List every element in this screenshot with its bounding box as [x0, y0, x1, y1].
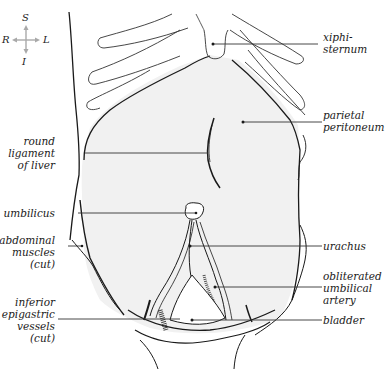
label-line: ligament [8, 147, 55, 159]
compass-superior: S [22, 13, 29, 23]
leg-right [234, 335, 245, 369]
label-line: (cut) [2, 332, 55, 344]
label-line: epigastric [2, 308, 55, 320]
label-xiphisternum: xiphi- sternum [323, 31, 367, 55]
label-line: xiphi- [323, 31, 367, 43]
compass-right: R [2, 35, 10, 45]
label-obliterated-umbilical-artery: obliterated umbilical artery [323, 270, 382, 306]
compass-inferior: I [22, 57, 26, 67]
label-line: round [8, 135, 55, 147]
label-line: artery [323, 294, 382, 306]
label-line: sternum [323, 43, 367, 55]
compass-left: L [43, 35, 50, 45]
rib-left-1 [98, 14, 188, 48]
label-inferior-epigastric-vessels: inferior epigastric vessels (cut) [2, 296, 55, 344]
label-line: umbilical [323, 282, 382, 294]
xiphisternum-side [196, 14, 204, 30]
rib-right-1 [230, 14, 303, 64]
label-urachus: urachus [323, 240, 366, 252]
label-line: muscles [0, 246, 55, 258]
label-bladder: bladder [323, 314, 364, 326]
umbilicus-shape [185, 203, 203, 220]
label-line: (cut) [0, 258, 55, 270]
label-abdominal-muscles: abdominal muscles (cut) [0, 234, 55, 270]
left-body-wall [69, 12, 79, 240]
label-umbilicus: umbilicus [3, 207, 55, 219]
label-line: parietal [323, 109, 385, 121]
label-line: inferior [2, 296, 55, 308]
label-line: abdominal [0, 234, 55, 246]
label-line: bladder [323, 314, 364, 326]
label-line: peritoneum [323, 121, 385, 133]
label-line: vessels [2, 320, 55, 332]
label-line: obliterated [323, 270, 382, 282]
compass-rose [12, 25, 40, 54]
label-line: urachus [323, 240, 366, 252]
label-line: of liver [8, 159, 55, 171]
leg-left [140, 340, 158, 369]
label-parietal-peritoneum: parietal peritoneum [323, 109, 385, 133]
label-round-ligament-of-liver: round ligament of liver [8, 135, 55, 171]
label-line: umbilicus [3, 207, 55, 219]
